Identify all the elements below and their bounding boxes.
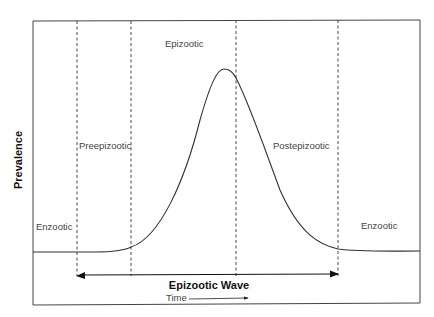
label-enzootic-left: Enzootic — [36, 221, 73, 232]
epizootic-wave-label: Epizootic Wave — [169, 279, 249, 291]
label-preepizootic: Preepizootic — [79, 140, 132, 151]
epizootic-diagram: Enzootic Preepizootic Epizootic Postepiz… — [0, 0, 434, 317]
label-enzootic-right: Enzootic — [361, 220, 398, 231]
epizootic-wave-arrow — [80, 274, 338, 275]
time-label: Time — [166, 292, 187, 303]
arrow-left-head — [76, 272, 85, 279]
plot-frame — [33, 20, 420, 305]
y-axis-label: Prevalence — [12, 131, 24, 189]
time-arrow — [189, 298, 248, 299]
label-postepizootic: Postepizootic — [273, 140, 330, 151]
label-epizootic: Epizootic — [165, 38, 204, 49]
